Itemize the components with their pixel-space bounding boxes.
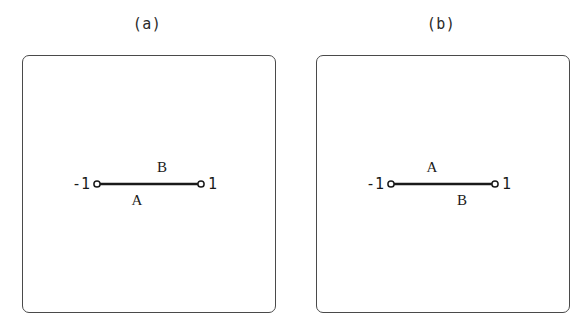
panel-a-arc-label-above: B [157,159,167,175]
panel-a-canvas: -1 1 B A [22,55,276,313]
panel-b-arc-label-below: B [457,192,467,208]
figure-sheet: (a) -1 1 B A (b) -1 1 [0,0,588,335]
panel-b-left-endpoint-label: -1 [366,175,384,193]
panel-a: (a) -1 1 B A [0,0,294,335]
panel-b-canvas: -1 1 A B [316,55,570,313]
panel-a-title: (a) [0,14,294,34]
panel-a-left-endpoint-label: -1 [72,175,90,193]
panel-b-right-endpoint-label: 1 [502,175,511,193]
panel-b-left-endpoint-marker [388,181,394,187]
panel-b-arc-label-above: A [427,159,438,175]
panel-a-arc-label-below: A [132,192,143,208]
panel-a-left-endpoint-marker [94,181,100,187]
panel-b: (b) -1 1 A B [294,0,588,335]
panel-b-title: (b) [294,14,588,34]
panel-a-right-endpoint-label: 1 [208,175,217,193]
panel-a-right-endpoint-marker [198,181,204,187]
panel-b-right-endpoint-marker [492,181,498,187]
